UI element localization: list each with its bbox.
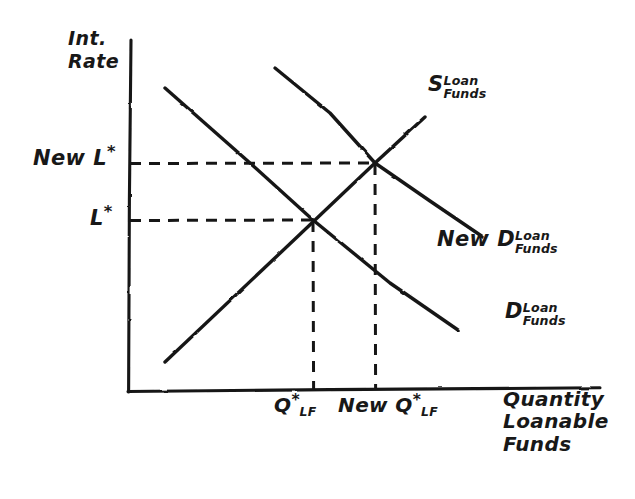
supply-curve [165,117,425,362]
y-tick-initial-star: * [104,202,113,221]
x-axis-title-line3: Funds [503,433,609,455]
y-tick-initial-equilibrium-rate: L* [90,203,112,230]
y-tick-new-star: * [107,142,116,161]
original-demand-curve-label: DLoanFunds [505,300,566,328]
guide-v-initial-quantity [313,221,314,391]
supply-curve-label: SLoanFunds [428,73,486,101]
x-axis-title-line1: Quantity [503,388,609,410]
y-axis-title: Int. Rate [68,28,119,73]
supply-curve-label-main: S [428,72,444,96]
x-tick-new-prefix: New [338,393,395,417]
new-demand-label-main: New D [437,227,515,251]
guide-h-initial-rate [130,220,313,221]
new-demand-curve-label: New DLoanFunds [437,228,558,256]
y-tick-new-prefix: New [33,146,93,170]
new-demand-label-subscript: LoanFunds [515,230,558,256]
new-demand-sub-line2: Funds [515,243,558,256]
y-axis [129,40,131,392]
x-tick-initial-equilibrium-quantity: Q*LF [274,392,317,419]
x-tick-new-subscript: LF [421,404,438,419]
y-axis-title-line2: Rate [68,51,119,72]
supply-sub-line2: Funds [444,88,487,101]
x-tick-initial-symbol: Q [274,393,291,417]
y-tick-new-symbol: L [93,146,107,170]
y-axis-title-line1: Int. [68,27,107,49]
original-demand-label-main: D [505,299,523,323]
diagram-canvas: Int. Rate New L* L* Q*LF New Q*LF SLoanF… [0,0,635,499]
guide-h-new-rate [130,163,375,164]
guide-v-new-quantity [375,164,376,390]
supply-curve-label-subscript: LoanFunds [444,75,487,101]
x-axis-title: Quantity Loanable Funds [503,388,609,455]
y-tick-initial-symbol: L [90,206,104,230]
x-tick-new-symbol: Q [395,393,412,417]
x-tick-new-star: * [413,391,421,409]
x-tick-initial-star: * [291,391,299,409]
original-demand-curve [165,88,458,330]
x-tick-initial-subscript: LF [300,404,317,419]
x-axis-title-line2: Loanable [503,410,609,432]
original-demand-sub-line2: Funds [523,315,566,328]
original-demand-label-subscript: LoanFunds [523,302,566,328]
x-tick-new-equilibrium-quantity: New Q*LF [338,392,438,419]
y-tick-new-equilibrium-rate: New L* [33,143,116,170]
